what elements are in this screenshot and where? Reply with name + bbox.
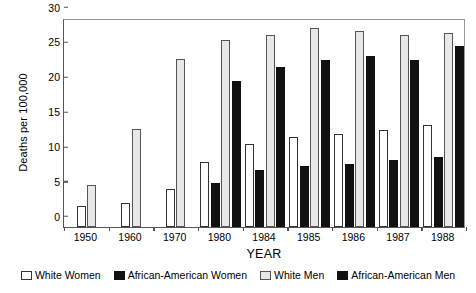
light-gray-square-icon bbox=[260, 271, 271, 280]
bar bbox=[266, 35, 275, 227]
bar bbox=[389, 160, 398, 227]
bar bbox=[121, 203, 130, 227]
y-axis-title: Deaths per 100,000 bbox=[18, 33, 29, 213]
x-axis-tick-label: 1985 bbox=[297, 232, 320, 243]
y-axis-tick-label: 20 bbox=[48, 72, 64, 83]
bar bbox=[211, 183, 220, 227]
bar-group bbox=[198, 20, 243, 227]
legend-item-label: African-American Men bbox=[351, 270, 455, 281]
y-axis-tick: 5 bbox=[54, 176, 64, 187]
legend-item: African-American Men bbox=[337, 270, 455, 281]
x-axis-tick-mark bbox=[109, 227, 110, 231]
bar bbox=[87, 185, 96, 227]
bar bbox=[166, 189, 175, 227]
y-axis-tick-label: 25 bbox=[48, 37, 64, 48]
bar bbox=[310, 28, 319, 227]
bar bbox=[444, 33, 453, 227]
x-axis-tick-mark bbox=[64, 227, 65, 231]
y-axis-tick-label: 0 bbox=[54, 211, 64, 222]
bars-layer bbox=[64, 20, 464, 227]
x-axis-tick-mark bbox=[377, 227, 378, 231]
bar bbox=[245, 144, 254, 227]
x-axis-tick-mark bbox=[198, 227, 199, 231]
x-axis-tick-label: 1950 bbox=[74, 232, 97, 243]
bar-group bbox=[153, 20, 198, 227]
bar bbox=[77, 206, 86, 227]
legend-item-label: White Men bbox=[274, 270, 324, 281]
bar bbox=[366, 56, 375, 227]
bar bbox=[455, 46, 464, 227]
bar bbox=[355, 31, 364, 227]
x-axis-tick-label: 1984 bbox=[252, 232, 275, 243]
y-axis-tick: 15 bbox=[48, 107, 64, 118]
y-axis-tick-mark bbox=[64, 7, 68, 8]
bar bbox=[200, 162, 209, 227]
y-axis-tick-label: 5 bbox=[54, 176, 64, 187]
bar bbox=[255, 170, 264, 227]
bar bbox=[334, 134, 343, 227]
bar-group bbox=[109, 20, 154, 227]
legend-item-label: African-American Women bbox=[128, 270, 247, 281]
bar-group bbox=[377, 20, 422, 227]
bar-chart: Deaths per 100,000 051015202530 19501960… bbox=[0, 0, 476, 293]
legend-item: White Women bbox=[21, 270, 101, 281]
x-axis-tick-mark bbox=[287, 227, 288, 231]
black-square-icon bbox=[337, 271, 348, 280]
x-axis-tick-label: 1960 bbox=[118, 232, 141, 243]
x-axis-tick-mark bbox=[466, 227, 467, 231]
bar bbox=[232, 81, 241, 227]
x-axis-tick-label: 1980 bbox=[208, 232, 231, 243]
x-axis-tick-label: 1988 bbox=[431, 232, 454, 243]
y-axis-tick-label: 30 bbox=[48, 2, 64, 13]
y-axis-tick: 0 bbox=[54, 211, 64, 222]
plot-area: 051015202530 bbox=[63, 19, 465, 228]
x-axis-tick-label: 1987 bbox=[386, 232, 409, 243]
legend-item: White Men bbox=[260, 270, 324, 281]
bar-group bbox=[287, 20, 332, 227]
x-axis-tick-label: 1970 bbox=[163, 232, 186, 243]
bar bbox=[132, 129, 141, 227]
x-axis-title: YEAR bbox=[63, 248, 465, 261]
y-axis-tick-label: 10 bbox=[48, 142, 64, 153]
bar bbox=[221, 40, 230, 227]
y-axis-tick: 20 bbox=[48, 72, 64, 83]
legend-item: African-American Women bbox=[114, 270, 247, 281]
bar-group bbox=[421, 20, 466, 227]
bar bbox=[410, 60, 419, 227]
x-axis-tick-mark bbox=[332, 227, 333, 231]
x-axis-tick-mark bbox=[421, 227, 422, 231]
bar-group bbox=[332, 20, 377, 227]
y-axis-tick: 25 bbox=[48, 37, 64, 48]
bar bbox=[400, 35, 409, 227]
x-axis-tick-mark bbox=[153, 227, 154, 231]
y-axis-tick-label: 15 bbox=[48, 107, 64, 118]
bar bbox=[434, 157, 443, 227]
bar bbox=[289, 137, 298, 227]
x-axis-tick-label: 1986 bbox=[342, 232, 365, 243]
bar bbox=[345, 164, 354, 227]
bar bbox=[423, 125, 432, 227]
legend-item-label: White Women bbox=[35, 270, 101, 281]
bar-group bbox=[243, 20, 288, 227]
bar bbox=[379, 130, 388, 227]
y-axis-tick: 30 bbox=[48, 2, 64, 13]
bar bbox=[276, 67, 285, 227]
y-axis-tick: 10 bbox=[48, 142, 64, 153]
x-axis-tick-mark bbox=[243, 227, 244, 231]
white-square-outline-icon bbox=[21, 271, 32, 280]
bar bbox=[176, 59, 185, 227]
bar bbox=[321, 60, 330, 227]
bar bbox=[300, 166, 309, 227]
chart-legend: White WomenAfrican-American WomenWhite M… bbox=[0, 270, 476, 281]
bar-group bbox=[64, 20, 109, 227]
black-square-icon bbox=[114, 271, 125, 280]
